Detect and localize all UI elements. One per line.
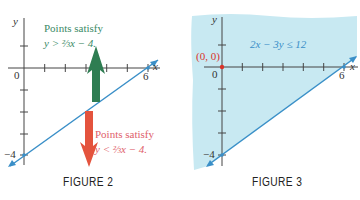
fig2-y-axis-label: y: [13, 15, 18, 27]
fig3-x-tick-6-label: 6: [339, 69, 345, 81]
fig3-x-axis-label: x: [350, 60, 355, 72]
y-intercept-point: [22, 153, 26, 157]
fig3-y-tick-neg4-label: −4: [203, 148, 215, 160]
fig2-lower-inequality: y < ⅔x − 4.: [95, 143, 147, 155]
y-intercept-point: [220, 153, 224, 157]
origin-test-point: [220, 65, 224, 69]
green-arrow-up-icon: [87, 46, 105, 102]
figure-2-caption: FIGURE 2: [63, 175, 113, 189]
fig2-x-tick-6-label: 6: [143, 70, 149, 82]
fig3-origin-point-label: (0, 0): [196, 50, 220, 62]
fig3-origin-label: 0: [212, 68, 218, 80]
fig2-y-tick-neg4-label: −4: [4, 148, 16, 160]
line-arrowhead-left: [8, 160, 16, 167]
fig3-region-inequality: 2x − 3y ≤ 12: [250, 38, 306, 50]
figure-3-caption: FIGURE 3: [252, 175, 302, 189]
fig2-upper-inequality: y > ⅔x − 4.: [44, 37, 96, 49]
fig2-origin-label: 0: [14, 69, 20, 81]
fig2-x-axis-label: x: [153, 60, 158, 72]
fig2-lower-region-text: Points satisfy: [95, 128, 154, 140]
fig3-y-axis-label: y: [212, 13, 217, 25]
fig2-upper-region-text: Points satisfy: [44, 22, 103, 34]
